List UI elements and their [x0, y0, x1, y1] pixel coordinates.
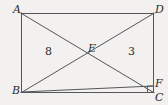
- vertex-label-D: D: [155, 4, 164, 15]
- segment-BF: [22, 86, 154, 92]
- vertex-label-F: F: [155, 78, 163, 89]
- figure-canvas: [0, 0, 168, 105]
- vertex-label-C: C: [155, 92, 163, 103]
- vertex-label-A: A: [13, 4, 21, 15]
- area-label-left: 8: [45, 46, 52, 57]
- vertex-label-B: B: [12, 85, 20, 96]
- vertex-label-E: E: [88, 43, 96, 54]
- area-label-right: 3: [128, 46, 135, 57]
- geometry-figure: A D B C F E 8 3: [0, 0, 168, 105]
